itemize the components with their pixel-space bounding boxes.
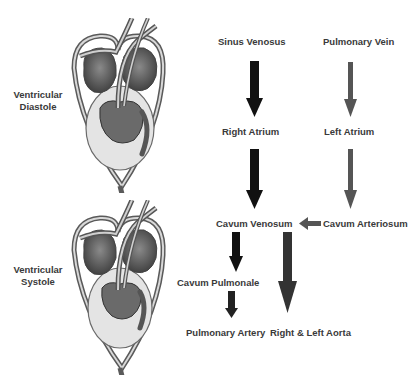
node-cavum-arteriosum: Cavum Arteriosum xyxy=(323,218,408,229)
arrow-cavum-venosum-to-cavum-pulmonale xyxy=(229,232,243,272)
arrow-left-atrium-to-cavum-arteriosum xyxy=(344,149,357,209)
node-cavum-venosum: Cavum Venosum xyxy=(216,218,293,229)
node-cavum-pulmonale: Cavum Pulmonale xyxy=(177,277,259,288)
node-pulmonary-artery: Pulmonary Artery xyxy=(186,327,265,338)
arrow-cavum-venosum-to-aorta xyxy=(278,232,297,313)
arrow-sinus-to-right-atrium xyxy=(246,61,263,117)
arrow-cavum-arteriosum-to-cavum-venosum xyxy=(299,217,321,230)
node-right-atrium: Right Atrium xyxy=(222,126,279,137)
arrow-pulmonary-vein-to-left-atrium xyxy=(344,62,357,117)
arrow-right-atrium-to-cavum-venosum xyxy=(246,149,263,209)
flow-arrows xyxy=(0,0,419,378)
node-left-atrium: Left Atrium xyxy=(324,126,374,137)
node-sinus-venosus: Sinus Venosus xyxy=(218,36,286,47)
node-aorta: Right & Left Aorta xyxy=(270,327,351,338)
node-pulmonary-vein: Pulmonary Vein xyxy=(323,36,394,47)
arrow-cavum-pulmonale-to-pulmonary-artery xyxy=(225,291,238,318)
